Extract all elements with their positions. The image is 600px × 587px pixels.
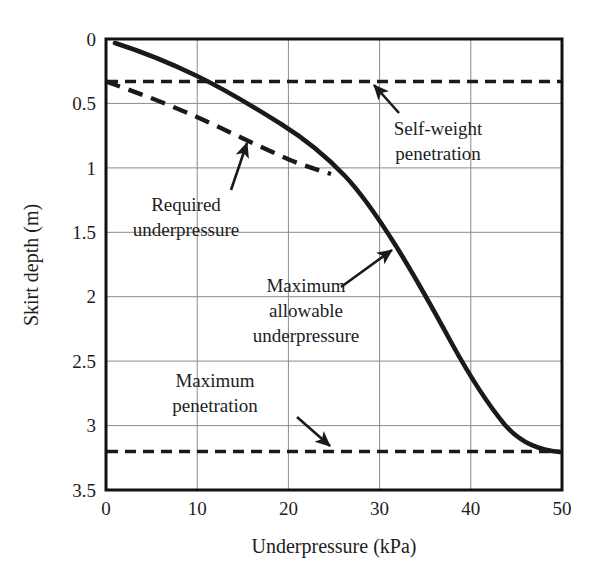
skirt-penetration-chart: Self-weight penetration Required underpr… [0, 0, 600, 587]
y-tick-1.5: 1.5 [72, 222, 96, 243]
maximum-allowable-label-line2: allowable [269, 300, 343, 321]
y-tick-2: 2 [87, 286, 97, 307]
y-tick-3: 3 [87, 415, 97, 436]
y-tick-1: 1 [87, 158, 97, 179]
x-tick-0: 0 [101, 498, 111, 519]
self-weight-label-line2: penetration [395, 143, 481, 164]
x-tick-50: 50 [553, 498, 572, 519]
y-tick-3.5: 3.5 [72, 480, 96, 501]
y-tick-2.5: 2.5 [72, 351, 96, 372]
required-underpressure-label-line2: underpressure [133, 219, 240, 240]
x-axis-title: Underpressure (kPa) [252, 535, 417, 558]
x-tick-10: 10 [188, 498, 207, 519]
x-tick-20: 20 [279, 498, 298, 519]
required-underpressure-label-line1: Required [151, 194, 221, 215]
y-tick-0: 0 [87, 29, 97, 50]
chart-figure: Self-weight penetration Required underpr… [0, 0, 600, 587]
self-weight-label-line1: Self-weight [394, 118, 483, 139]
maximum-penetration-label-line2: penetration [172, 395, 258, 416]
x-tick-labels: 0 10 20 30 40 50 [101, 498, 571, 519]
x-tick-40: 40 [461, 498, 480, 519]
y-axis-title: Skirt depth (m) [20, 204, 43, 326]
maximum-allowable-label-line3: underpressure [253, 325, 360, 346]
y-tick-labels: 0 0.5 1 1.5 2 2.5 3 3.5 [72, 29, 96, 501]
maximum-penetration-label-line1: Maximum [175, 370, 254, 391]
maximum-allowable-label-line1: Maximum [266, 275, 345, 296]
y-tick-0.5: 0.5 [72, 93, 96, 114]
x-tick-30: 30 [370, 498, 389, 519]
